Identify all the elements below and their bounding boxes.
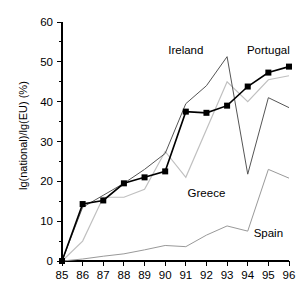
data-point-marker xyxy=(224,103,230,109)
x-tick-label: 89 xyxy=(138,269,151,281)
series-label-greece: Greece xyxy=(188,187,226,199)
y-axis-title-text: lg(national)/lg(EU) (%) xyxy=(17,81,29,190)
y-tick-label: 50 xyxy=(40,56,53,68)
y-tick-label: 60 xyxy=(40,16,53,28)
x-tick-label: 93 xyxy=(221,269,234,281)
chart-plot-area: lg(national)/lg(EU) (%) 0102030405060 85… xyxy=(0,0,300,287)
data-point-marker xyxy=(121,180,127,186)
series-line-spain xyxy=(62,169,289,261)
data-point-marker xyxy=(203,110,209,116)
x-tick-label: 88 xyxy=(118,269,131,281)
data-point-marker xyxy=(183,109,189,115)
y-tick-label: 40 xyxy=(40,96,53,108)
data-point-marker xyxy=(286,64,292,70)
chart-figure: lg(national)/lg(EU) (%) 0102030405060 85… xyxy=(0,0,300,287)
x-tick-label: 86 xyxy=(76,269,89,281)
x-tick-label: 95 xyxy=(262,269,275,281)
x-tick-label: 85 xyxy=(56,269,69,281)
x-tick-label: 94 xyxy=(241,269,254,281)
series-label-portugal: Portugal xyxy=(247,44,290,56)
x-tick-label: 91 xyxy=(179,269,192,281)
series-label-ireland: Ireland xyxy=(168,44,203,56)
x-tick-label: 92 xyxy=(200,269,213,281)
data-point-marker xyxy=(265,70,271,76)
y-tick-label: 0 xyxy=(47,255,53,267)
y-tick-label: 10 xyxy=(40,215,53,227)
data-point-marker xyxy=(162,168,168,174)
x-tick-label: 90 xyxy=(159,269,172,281)
data-point-marker xyxy=(59,258,65,264)
x-axis-ticks: 858687888990919293949596 xyxy=(56,261,296,281)
x-tick-label: 87 xyxy=(97,269,110,281)
y-axis-title: lg(national)/lg(EU) (%) xyxy=(17,81,29,190)
series-annotations: IrelandPortugalGreeceSpain xyxy=(168,44,290,239)
data-point-marker xyxy=(245,84,251,90)
x-tick-label: 96 xyxy=(283,269,296,281)
data-point-marker xyxy=(80,201,86,207)
y-tick-label: 30 xyxy=(40,136,53,148)
data-point-marker xyxy=(142,174,148,180)
data-point-marker xyxy=(100,197,106,203)
y-axis-ticks: 0102030405060 xyxy=(40,16,62,267)
y-tick-label: 20 xyxy=(40,175,53,187)
series-label-spain: Spain xyxy=(254,227,283,239)
series-spain xyxy=(62,169,289,261)
